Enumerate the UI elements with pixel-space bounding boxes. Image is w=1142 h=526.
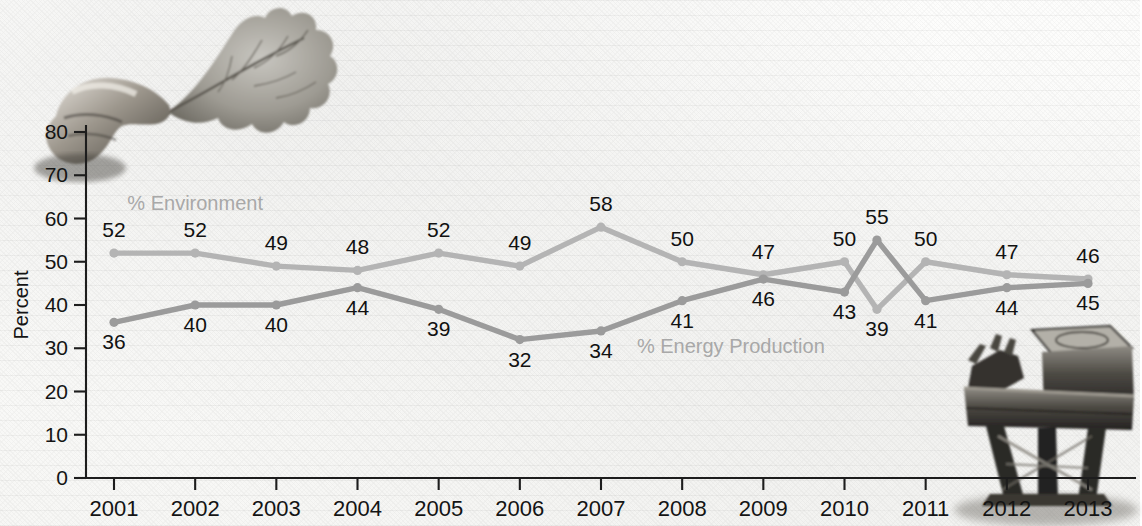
- data-point: [1002, 283, 1011, 292]
- x-axis-tick-label: 2005: [414, 496, 463, 521]
- data-label: 40: [265, 313, 288, 336]
- x-axis-tick-label: 2012: [982, 496, 1031, 521]
- y-axis-tick-label: 0: [56, 466, 68, 489]
- data-label: 34: [589, 339, 613, 362]
- data-label: 43: [833, 300, 856, 323]
- data-label: 58: [589, 192, 612, 215]
- chart-series-layer: [109, 223, 1092, 345]
- y-axis-title: Percent: [10, 270, 32, 339]
- data-point: [434, 305, 443, 314]
- x-axis-tick-label: 2009: [739, 496, 788, 521]
- y-axis-tick-label: 40: [45, 293, 68, 316]
- data-label: 52: [102, 218, 125, 241]
- data-point: [272, 261, 281, 270]
- data-point: [678, 257, 687, 266]
- x-axis-tick-label: 2008: [658, 496, 707, 521]
- data-label: 47: [995, 240, 1018, 263]
- y-axis-tick-label: 70: [45, 163, 68, 186]
- data-point: [353, 266, 362, 275]
- data-label: 49: [265, 231, 288, 254]
- data-label: 39: [865, 317, 888, 340]
- data-point: [921, 257, 930, 266]
- data-point: [109, 249, 118, 258]
- data-label: 55: [865, 205, 888, 228]
- data-label: 36: [102, 330, 125, 353]
- y-axis-tick-label: 10: [45, 423, 68, 446]
- x-axis-tick-label: 2011: [902, 496, 949, 521]
- data-label: 44: [346, 296, 370, 319]
- y-axis-tick-label: 50: [45, 250, 68, 273]
- data-point: [272, 300, 281, 309]
- series-energy-production: [109, 236, 1092, 345]
- data-label: 47: [752, 240, 775, 263]
- y-axis-tick-label: 80: [45, 120, 68, 143]
- series-line: [114, 240, 1088, 339]
- data-label: 48: [346, 235, 369, 258]
- data-label: 49: [508, 231, 531, 254]
- chart-data-labels: 5252494852495850475039504746364040443932…: [102, 192, 1099, 370]
- data-label: 39: [427, 317, 450, 340]
- data-label: 41: [670, 309, 693, 332]
- series-annotation-energy-production: % Energy Production: [637, 335, 825, 357]
- data-point: [434, 249, 443, 258]
- data-label: 32: [508, 348, 531, 371]
- data-point: [840, 257, 849, 266]
- data-point: [1083, 279, 1092, 288]
- data-label: 46: [752, 287, 775, 310]
- x-axis-tick-label: 2007: [577, 496, 626, 521]
- y-axis-tick-label: 60: [45, 207, 68, 230]
- data-point: [109, 318, 118, 327]
- data-point: [515, 335, 524, 344]
- data-label: 50: [670, 227, 693, 250]
- chart-annotations: % Environment% Energy Production: [127, 192, 824, 357]
- data-point: [678, 296, 687, 305]
- data-point: [596, 223, 605, 232]
- data-point: [840, 287, 849, 296]
- series-annotation-environment: % Environment: [127, 192, 263, 214]
- data-label: 44: [995, 296, 1019, 319]
- data-point: [191, 249, 200, 258]
- data-label: 40: [183, 313, 206, 336]
- x-axis-tick-label: 2001: [90, 496, 139, 521]
- data-label: 52: [427, 218, 450, 241]
- data-point: [191, 300, 200, 309]
- data-label: 46: [1076, 244, 1099, 267]
- data-label: 45: [1076, 291, 1099, 314]
- y-axis-tick-label: 20: [45, 380, 68, 403]
- data-point: [1002, 270, 1011, 279]
- chart-axes: 0102030405060708020012002200320042005200…: [10, 120, 1136, 521]
- data-point: [921, 296, 930, 305]
- x-axis-tick-label: 2006: [495, 496, 544, 521]
- data-label: 52: [183, 218, 206, 241]
- data-label: 50: [914, 227, 937, 250]
- x-axis-tick-label: 2010: [820, 496, 869, 521]
- data-point: [353, 283, 362, 292]
- data-label: 41: [914, 309, 937, 332]
- data-label: 50: [833, 227, 856, 250]
- x-axis-tick-label: 2004: [333, 496, 382, 521]
- data-point: [596, 326, 605, 335]
- data-point: [759, 274, 768, 283]
- x-axis-tick-label: 2013: [1064, 496, 1113, 521]
- data-point: [515, 261, 524, 270]
- x-axis-tick-label: 2002: [171, 496, 220, 521]
- x-axis-tick-label: 2003: [252, 496, 301, 521]
- y-axis-tick-label: 30: [45, 336, 68, 359]
- data-point: [872, 236, 881, 245]
- data-point: [872, 305, 881, 314]
